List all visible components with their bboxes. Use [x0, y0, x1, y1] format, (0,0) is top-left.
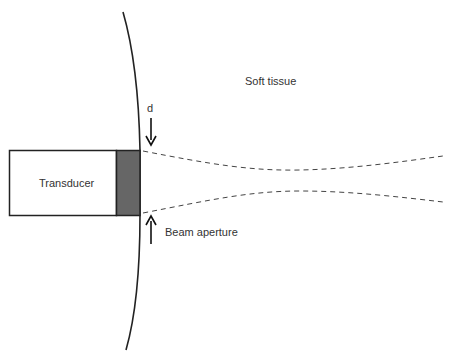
d-label: d [147, 103, 153, 114]
transducer-element [117, 151, 141, 216]
transducer-label: Transducer [39, 178, 94, 189]
soft-tissue-label: Soft tissue [245, 76, 296, 87]
arrow-down-icon [146, 118, 156, 145]
beam-aperture-label: Beam aperture [165, 227, 238, 238]
beam-lower-edge [143, 191, 443, 213]
arrow-up-icon [146, 216, 156, 244]
beam-upper-edge [143, 151, 443, 170]
